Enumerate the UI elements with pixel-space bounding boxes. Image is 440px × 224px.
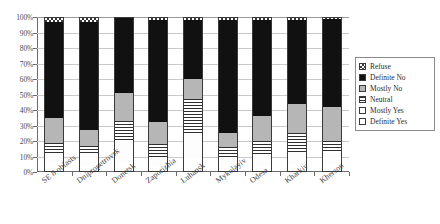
y-axis-tick-mark: [33, 157, 37, 158]
bar-segment: [183, 99, 203, 133]
bar-segment: [322, 17, 342, 19]
y-axis-tick-mark: [33, 48, 37, 49]
legend-item: Definite Yes: [359, 116, 430, 127]
y-axis-tick-mark: [33, 64, 37, 65]
legend-label: Mostly No: [370, 85, 402, 93]
plot-area: 100%90%80%70%60%50%40%30%20%10%0% SE 8 o…: [37, 17, 349, 172]
bar-segment: [218, 147, 238, 158]
legend-label: Definite Yes: [370, 118, 407, 126]
bar-column: [79, 17, 99, 172]
legend-swatch: [359, 63, 366, 70]
legend-swatch: [359, 96, 366, 103]
bar-segment: [252, 17, 272, 20]
y-axis-tick-mark: [33, 110, 37, 111]
legend-label: Neutral: [370, 96, 393, 104]
bar-segment: [44, 17, 64, 22]
bar-segment: [183, 79, 203, 99]
legend-label: Refuse: [370, 63, 391, 71]
x-axis-tick-mark: [245, 172, 246, 176]
bar-segment: [218, 20, 238, 133]
x-axis-tick-mark: [141, 172, 142, 176]
legend-item: Refuse: [359, 61, 430, 72]
bar-segment: [218, 17, 238, 20]
x-axis-tick-mark: [349, 172, 350, 176]
x-axis-tick-mark: [280, 172, 281, 176]
x-axis-tick-mark: [210, 172, 211, 176]
legend-swatch: [359, 74, 366, 81]
bar-segment: [44, 22, 64, 118]
bar-segment: [322, 107, 342, 141]
bar-segment: [79, 17, 99, 22]
y-axis-tick-mark: [33, 126, 37, 127]
legend-swatch: [359, 85, 366, 92]
bar-segment: [79, 22, 99, 131]
legend-label: Mostly Yes: [370, 107, 404, 115]
bar-column: [252, 17, 272, 172]
y-axis-tick-mark: [33, 79, 37, 80]
bar-segment: [287, 133, 307, 152]
legend-item: Mostly Yes: [359, 105, 430, 116]
bar-column: [218, 17, 238, 172]
y-axis-tick-mark: [33, 17, 37, 18]
x-axis-tick-mark: [314, 172, 315, 176]
y-axis-tick-mark: [33, 33, 37, 34]
bar-segment: [252, 116, 272, 141]
bar-segment: [322, 19, 342, 107]
bar-segment: [252, 20, 272, 116]
bar-column: [44, 17, 64, 172]
legend-swatch: [359, 107, 366, 114]
bar-segment: [252, 155, 272, 166]
x-axis-tick-mark: [72, 172, 73, 176]
y-axis-tick-mark: [33, 141, 37, 142]
bar-column: [183, 17, 203, 172]
y-axis-tick-mark: [33, 172, 37, 173]
bar-segment: [79, 146, 99, 155]
bar-segment: [287, 104, 307, 133]
bar-segment: [148, 122, 168, 144]
bar-segment: [183, 17, 203, 20]
bar-segment: [287, 17, 307, 20]
legend-swatch: [359, 118, 366, 125]
bar-segment: [183, 133, 203, 158]
bar-column: [287, 17, 307, 172]
bar-column: [148, 17, 168, 172]
bar-segment: [148, 144, 168, 158]
bar-segment: [114, 93, 134, 121]
legend-item: Definite No: [359, 72, 430, 83]
legend: RefuseDefinite NoMostly NoNeutralMostly …: [355, 57, 435, 131]
legend-label: Definite No: [370, 74, 406, 82]
x-axis-tick-mark: [106, 172, 107, 176]
bar-segment: [148, 20, 168, 122]
bar-segment: [183, 20, 203, 79]
bar-segment: [44, 118, 64, 143]
bar-segment: [44, 143, 64, 155]
bar-segment: [114, 121, 134, 141]
bar-segment: [148, 17, 168, 20]
stacked-bar-chart: 100%90%80%70%60%50%40%30%20%10%0% SE 8 o…: [0, 0, 440, 224]
x-axis-tick-mark: [176, 172, 177, 176]
legend-item: Mostly No: [359, 83, 430, 94]
bar-segment: [218, 133, 238, 147]
legend-item: Neutral: [359, 94, 430, 105]
bar-column: [322, 17, 342, 172]
bar-segment: [322, 141, 342, 153]
bar-segment: [252, 141, 272, 155]
y-axis-tick-mark: [33, 95, 37, 96]
bar-segment: [287, 20, 307, 104]
bar-segment: [114, 17, 134, 93]
bar-segment: [79, 130, 99, 146]
